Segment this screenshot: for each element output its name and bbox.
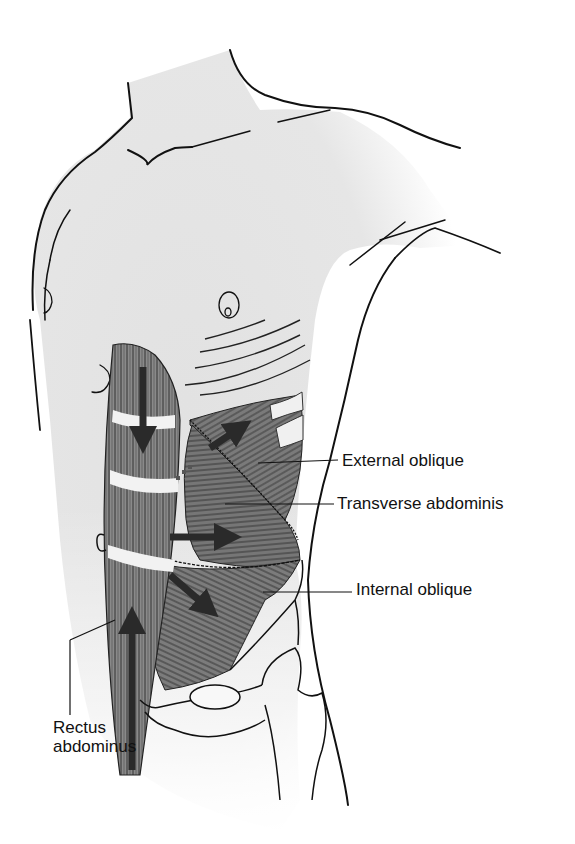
label-external-oblique: External oblique: [342, 451, 464, 470]
label-rectus-abdominus: Rectus abdominus: [53, 718, 136, 756]
label-rectus-line2: abdominus: [53, 737, 136, 756]
label-transverse-abdominis: Transverse abdominis: [337, 494, 504, 513]
label-rectus-line1: Rectus: [53, 718, 136, 737]
label-internal-oblique: Internal oblique: [356, 580, 472, 599]
